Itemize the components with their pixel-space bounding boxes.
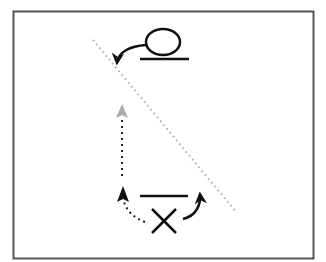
reflection-diagram xyxy=(0,0,326,262)
